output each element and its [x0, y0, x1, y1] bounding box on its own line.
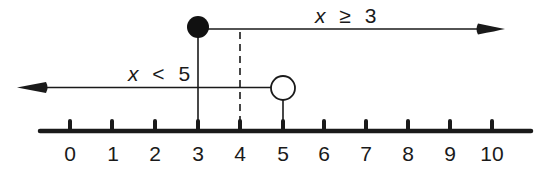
tick-label-4: 4 — [234, 142, 246, 165]
lower-variable: x — [127, 62, 140, 85]
upper-value: 3 — [365, 4, 377, 27]
tick-label-2: 2 — [149, 142, 161, 165]
upper-variable: x — [314, 4, 327, 27]
tick-label-10: 10 — [480, 142, 503, 165]
open-endpoint-circle — [271, 76, 295, 100]
tick-label-3: 3 — [192, 142, 204, 165]
right-arrowhead-icon — [477, 24, 506, 35]
left-arrowhead-icon — [17, 82, 48, 93]
tick-label-7: 7 — [360, 142, 372, 165]
upper-operator: ≥ — [339, 4, 351, 27]
upper-inequality-label: x ≥ 3 — [314, 4, 376, 27]
closed-endpoint-dot — [187, 16, 209, 38]
tick-label-8: 8 — [402, 142, 414, 165]
number-line-diagram: 0 1 2 3 4 5 6 7 8 9 10 x ≥ 3 x < 5 — [0, 0, 541, 176]
tick-label-1: 1 — [107, 142, 119, 165]
tick-label-0: 0 — [64, 142, 76, 165]
lower-operator: < — [152, 62, 164, 85]
lower-value: 5 — [178, 62, 190, 85]
tick-label-9: 9 — [444, 142, 456, 165]
lower-inequality-label: x < 5 — [127, 62, 190, 85]
axis-tick-labels: 0 1 2 3 4 5 6 7 8 9 10 — [64, 142, 504, 165]
tick-label-5: 5 — [277, 142, 289, 165]
tick-label-6: 6 — [318, 142, 330, 165]
